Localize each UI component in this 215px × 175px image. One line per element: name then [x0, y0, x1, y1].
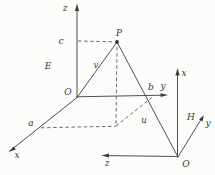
frame2-y-axis: [178, 120, 201, 158]
frame1-y-axis-arrowhead: [161, 93, 168, 97]
point-P-label: P: [115, 28, 123, 38]
frame1-z-axis-label: z: [62, 3, 68, 13]
vector-u-line: [117, 42, 178, 157]
point-P-dot: [115, 40, 119, 44]
dashed-P-to-projection: [116, 47, 117, 126]
dashed-a-to-projection: [41, 126, 116, 128]
frame2-z-axis-label: z: [104, 158, 110, 168]
frame1-x-axis-label: x: [14, 150, 19, 160]
frame2-z-axis: [107, 156, 178, 157]
frame2-z-axis-arrowhead: [102, 154, 110, 158]
coordinate-b-label: b: [148, 82, 154, 92]
frame1-y-axis-label: y: [159, 81, 166, 91]
frame2-y-axis-label: y: [204, 118, 211, 128]
coordinate-a-label: a: [28, 118, 33, 128]
frame1-region-label: E: [44, 61, 52, 71]
coordinate-c-label: c: [58, 36, 63, 46]
frame2-x-axis-arrowhead: [175, 68, 179, 76]
frame2-y-axis-arrowhead: [199, 115, 204, 121]
vector-u-label: u: [141, 115, 146, 125]
dashed-c-to-P: [78, 41, 114, 42]
frame2-x-axis-label: x: [181, 68, 186, 78]
frame2-region-label: H: [186, 112, 195, 122]
vector-v-label: v: [94, 60, 99, 70]
frame1-origin-label: O: [64, 87, 72, 97]
frame2-origin-label: O: [182, 159, 190, 169]
frame1-y-axis: [77, 95, 162, 97]
coordinate-frames-diagram: z y x O E c a b P v u x y z O H: [0, 0, 215, 175]
frame1-x-axis: [13, 98, 77, 149]
frame1-z-axis-arrowhead: [75, 4, 79, 12]
diagram-canvas: z y x O E c a b P v u x y z O H: [0, 0, 215, 175]
